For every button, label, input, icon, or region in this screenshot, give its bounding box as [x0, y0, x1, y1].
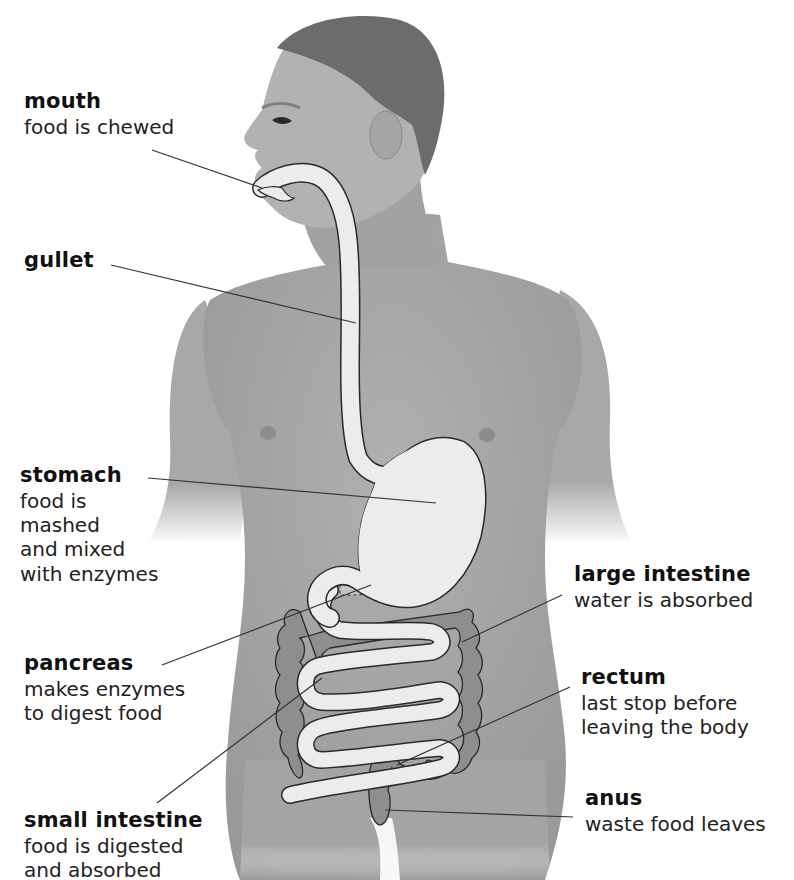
label-rectum-title: rectum: [581, 665, 749, 691]
label-pancreas: pancreas makes enzymes to digest food: [24, 651, 185, 725]
label-mouth-title: mouth: [24, 89, 174, 115]
nipple-left: [260, 426, 276, 440]
label-small-intestine-desc-2: and absorbed: [24, 858, 203, 880]
label-stomach-desc-4: with enzymes: [20, 562, 158, 586]
label-pancreas-title: pancreas: [24, 651, 185, 677]
label-large-intestine-desc: water is absorbed: [574, 588, 753, 612]
label-rectum-desc-2: leaving the body: [581, 715, 749, 739]
label-mouth-desc: food is chewed: [24, 115, 174, 139]
label-small-intestine: small intestine food is digested and abs…: [24, 808, 203, 880]
label-anus-desc: waste food leaves: [585, 812, 766, 836]
nipple-right: [479, 428, 495, 442]
label-large-intestine: large intestine water is absorbed: [574, 562, 753, 612]
label-gullet: gullet: [24, 248, 94, 274]
label-small-intestine-title: small intestine: [24, 808, 203, 834]
label-stomach-desc-3: and mixed: [20, 537, 158, 561]
label-rectum-desc-1: last stop before: [581, 691, 749, 715]
label-anus: anus waste food leaves: [585, 786, 766, 836]
label-stomach: stomach food is mashed and mixed with en…: [20, 463, 158, 586]
ear: [370, 111, 402, 159]
label-anus-title: anus: [585, 786, 766, 812]
label-large-intestine-title: large intestine: [574, 562, 753, 588]
label-pancreas-desc-1: makes enzymes: [24, 677, 185, 701]
label-stomach-desc-1: food is: [20, 489, 158, 513]
label-pancreas-desc-2: to digest food: [24, 701, 185, 725]
label-rectum: rectum last stop before leaving the body: [581, 665, 749, 739]
label-mouth: mouth food is chewed: [24, 89, 174, 139]
label-stomach-desc-2: mashed: [20, 513, 158, 537]
label-stomach-title: stomach: [20, 463, 158, 489]
leader-mouth: [152, 150, 262, 188]
digestive-system-diagram: mouth food is chewed gullet stomach food…: [0, 0, 794, 880]
label-small-intestine-desc-1: food is digested: [24, 834, 203, 858]
label-gullet-title: gullet: [24, 248, 94, 274]
